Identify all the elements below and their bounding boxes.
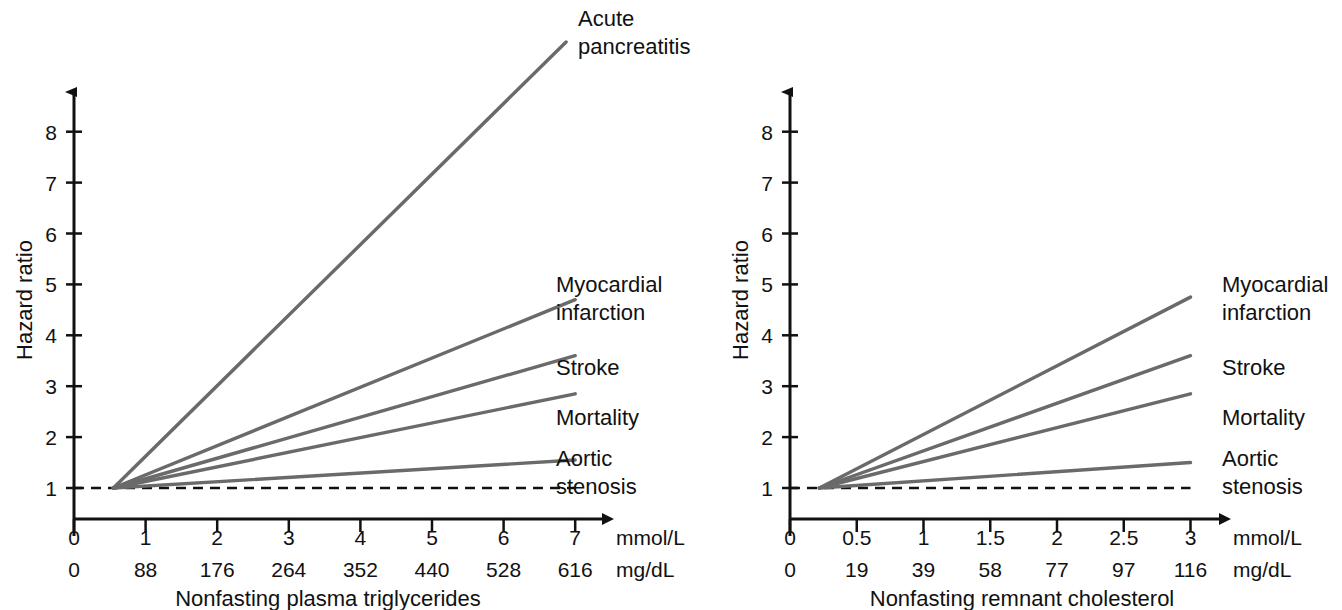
x-tick-label-primary: 1 xyxy=(918,526,930,549)
y-tick-label: 4 xyxy=(761,324,773,347)
y-tick-label: 7 xyxy=(761,172,773,195)
x-tick-label-primary: 2 xyxy=(211,526,223,549)
x-tick-label-secondary: 19 xyxy=(845,558,868,581)
x-tick-label-secondary: 440 xyxy=(414,558,449,581)
x-tick-label-primary: 5 xyxy=(426,526,438,549)
series-label-aortic-stenosis: Aortic xyxy=(556,446,612,471)
x-tick-label-secondary: 116 xyxy=(1174,558,1207,581)
x-unit-primary: mmol/L xyxy=(616,526,685,549)
y-tick-label: 7 xyxy=(45,172,57,195)
series-label-myocardial-infarction: infarction xyxy=(556,300,645,325)
y-tick-label: 5 xyxy=(45,273,57,296)
series-label-myocardial-infarction: infarction xyxy=(1222,300,1311,325)
series-label-aortic-stenosis: stenosis xyxy=(1222,474,1303,499)
x-tick-label-secondary: 528 xyxy=(486,558,521,581)
series-label-acute-pancreatitis: pancreatitis xyxy=(578,34,691,59)
series-label-myocardial-infarction: Myocardial xyxy=(556,272,662,297)
panel-right: 12345678Hazard ratio000.5191391.5582772.… xyxy=(728,92,1328,610)
series-line-myocardial-infarction xyxy=(819,297,1190,488)
y-tick-label: 6 xyxy=(45,223,57,246)
x-tick-label-secondary: 97 xyxy=(1112,558,1135,581)
x-unit-secondary: mg/dL xyxy=(616,558,674,581)
y-axis-title: Hazard ratio xyxy=(728,240,753,360)
x-tick-label-secondary: 77 xyxy=(1045,558,1068,581)
y-tick-label: 2 xyxy=(45,426,57,449)
x-unit-primary: mmol/L xyxy=(1233,526,1302,549)
x-tick-label-secondary: 264 xyxy=(271,558,306,581)
y-tick-label: 1 xyxy=(761,477,773,500)
panel-caption: Nonfasting plasma triglycerides xyxy=(175,586,481,610)
x-tick-label-secondary: 0 xyxy=(784,558,796,581)
y-tick-label: 3 xyxy=(761,375,773,398)
series-line-acute-pancreatitis xyxy=(113,42,566,488)
y-tick-label: 6 xyxy=(761,223,773,246)
series-label-aortic-stenosis: Aortic xyxy=(1222,446,1278,471)
x-tick-label-primary: 1.5 xyxy=(976,526,1005,549)
series-label-mortality: Mortality xyxy=(1222,405,1305,430)
x-tick-label-secondary: 88 xyxy=(134,558,157,581)
x-unit-secondary: mg/dL xyxy=(1233,558,1291,581)
x-tick-label-primary: 2.5 xyxy=(1109,526,1138,549)
x-tick-label-primary: 3 xyxy=(1185,526,1197,549)
hazard-ratio-figure: 12345678Hazard ratio00188217632644352544… xyxy=(0,0,1342,610)
y-tick-label: 8 xyxy=(45,121,57,144)
x-tick-label-primary: 1 xyxy=(140,526,152,549)
y-tick-label: 5 xyxy=(761,273,773,296)
series-line-myocardial-infarction xyxy=(113,300,575,488)
x-tick-label-secondary: 352 xyxy=(343,558,378,581)
x-tick-label-secondary: 58 xyxy=(979,558,1002,581)
x-tick-label-secondary: 176 xyxy=(200,558,235,581)
series-label-stroke: Stroke xyxy=(556,355,620,380)
y-axis-title: Hazard ratio xyxy=(12,240,37,360)
y-tick-label: 2 xyxy=(761,426,773,449)
x-tick-label-primary: 0 xyxy=(68,526,80,549)
series-label-stroke: Stroke xyxy=(1222,355,1286,380)
series-label-myocardial-infarction: Myocardial xyxy=(1222,272,1328,297)
x-tick-label-primary: 6 xyxy=(498,526,510,549)
x-tick-label-primary: 0.5 xyxy=(842,526,871,549)
x-tick-label-primary: 7 xyxy=(569,526,581,549)
x-tick-label-primary: 4 xyxy=(355,526,367,549)
x-tick-label-primary: 0 xyxy=(784,526,796,549)
y-tick-label: 3 xyxy=(45,375,57,398)
series-label-acute-pancreatitis: Acute xyxy=(578,6,634,31)
y-tick-label: 8 xyxy=(761,121,773,144)
y-tick-label: 4 xyxy=(45,324,57,347)
panel-left: 12345678Hazard ratio00188217632644352544… xyxy=(12,6,691,610)
x-tick-label-secondary: 616 xyxy=(558,558,593,581)
y-tick-label: 1 xyxy=(45,477,57,500)
series-line-stroke xyxy=(819,356,1190,488)
panel-caption: Nonfasting remnant cholesterol xyxy=(870,586,1175,610)
x-tick-label-secondary: 39 xyxy=(912,558,935,581)
x-tick-label-primary: 2 xyxy=(1051,526,1063,549)
figure-canvas: 12345678Hazard ratio00188217632644352544… xyxy=(0,0,1342,610)
x-tick-label-secondary: 0 xyxy=(68,558,80,581)
series-label-aortic-stenosis: stenosis xyxy=(556,474,637,499)
series-label-mortality: Mortality xyxy=(556,405,639,430)
x-tick-label-primary: 3 xyxy=(283,526,295,549)
